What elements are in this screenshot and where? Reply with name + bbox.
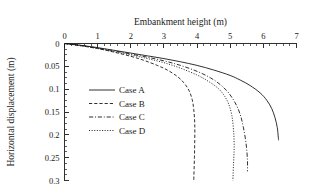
y-axis-title: Horizontal displacement (m) [6, 57, 17, 166]
curve-case-a [65, 44, 279, 141]
x-tick-label-7: 7 [294, 31, 298, 41]
y-tick-label-0.3: 0.3 [49, 176, 60, 186]
x-tick-label-6: 6 [261, 31, 265, 41]
line-chart: 0123456700.050.10.150.20.250.3Embankment… [0, 0, 313, 193]
curve-case-c [65, 44, 248, 172]
y-tick-label-0.25: 0.25 [45, 153, 60, 163]
legend-label-case-d: Case D [119, 126, 146, 136]
x-tick-label-3: 3 [162, 31, 166, 41]
chart-figure: 0123456700.050.10.150.20.250.3Embankment… [0, 0, 313, 193]
curve-case-d [65, 44, 235, 181]
x-axis-title: Embankment height (m) [134, 17, 227, 28]
x-tick-label-5: 5 [228, 31, 232, 41]
y-tick-label-0.15: 0.15 [45, 107, 60, 117]
y-tick-label-0.2: 0.2 [49, 130, 60, 140]
y-tick-label-0: 0 [55, 39, 59, 49]
x-tick-label-4: 4 [195, 31, 200, 41]
legend-label-case-c: Case C [119, 112, 145, 122]
legend-label-case-b: Case B [119, 99, 145, 109]
x-tick-label-2: 2 [129, 31, 133, 41]
y-tick-label-0.05: 0.05 [45, 61, 60, 71]
legend-label-case-a: Case A [119, 85, 145, 95]
x-tick-label-1: 1 [96, 31, 100, 41]
y-tick-label-0.1: 0.1 [49, 84, 60, 94]
x-tick-label-0: 0 [62, 31, 66, 41]
